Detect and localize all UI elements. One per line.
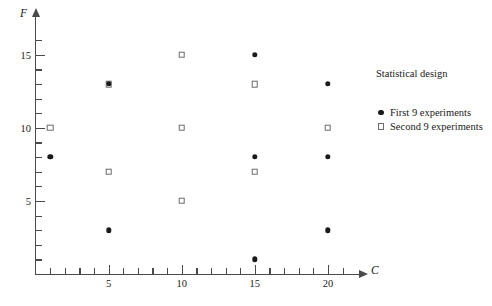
y-tick-label: 10 (9, 122, 31, 133)
x-axis-label: C (371, 264, 379, 276)
y-axis-label: F (20, 7, 27, 19)
y-tick-minor (36, 186, 42, 187)
data-point (106, 227, 111, 232)
y-tick-minor (36, 142, 42, 143)
legend: Statistical design First 9 experimentsSe… (376, 68, 492, 132)
y-tick-minor (36, 69, 42, 70)
x-tick-minor (211, 268, 212, 274)
x-tick-minor (50, 268, 51, 274)
y-tick-minor (36, 99, 42, 100)
x-tick-major (328, 265, 329, 274)
data-point (252, 154, 257, 159)
y-tick-minor (36, 216, 42, 217)
filled-circle-icon (376, 110, 386, 115)
data-point (252, 81, 259, 88)
x-tick-minor (152, 268, 153, 274)
legend-item: First 9 experiments (376, 107, 492, 118)
y-axis-arrow-icon (32, 8, 40, 17)
y-tick-minor (36, 113, 42, 114)
x-tick-minor (313, 268, 314, 274)
legend-item-label: First 9 experiments (390, 107, 471, 118)
x-axis-arrow-icon (359, 270, 368, 278)
legend-title: Statistical design (376, 68, 492, 79)
data-point (178, 125, 185, 132)
data-point (325, 154, 330, 159)
y-tick-label: 5 (9, 195, 31, 206)
x-tick-minor (226, 268, 227, 274)
legend-marker (378, 123, 384, 129)
legend-entries: First 9 experimentsSecond 9 experiments (376, 107, 492, 132)
x-tick-label: 15 (250, 278, 261, 289)
y-tick-minor (36, 230, 42, 231)
x-tick-minor (269, 268, 270, 274)
data-point (325, 81, 330, 86)
y-tick-minor (36, 245, 42, 246)
y-tick-minor (36, 40, 42, 41)
y-tick-minor (36, 172, 42, 173)
x-tick-minor (343, 268, 344, 274)
legend-marker (378, 110, 383, 115)
y-tick-major (36, 55, 45, 56)
x-tick-minor (196, 268, 197, 274)
data-point (105, 168, 112, 175)
open-square-icon (376, 123, 386, 129)
y-tick-minor (36, 157, 42, 158)
y-tick-minor (36, 84, 42, 85)
y-tick-major (36, 128, 45, 129)
x-tick-label: 5 (106, 278, 111, 289)
data-point (252, 168, 259, 175)
x-tick-minor (94, 268, 95, 274)
x-tick-label: 20 (323, 278, 334, 289)
legend-item: Second 9 experiments (376, 121, 492, 132)
x-tick-major (109, 265, 110, 274)
data-point (178, 51, 185, 58)
x-tick-minor (123, 268, 124, 274)
x-tick-minor (65, 268, 66, 274)
data-point (252, 52, 257, 57)
x-tick-minor (299, 268, 300, 274)
x-tick-minor (79, 268, 80, 274)
x-tick-minor (284, 268, 285, 274)
x-axis-line (35, 274, 360, 275)
y-tick-label: 15 (9, 49, 31, 60)
y-tick-major (36, 201, 45, 202)
x-tick-major (255, 265, 256, 274)
scatter-plot-figure: C F 5101520 51015 Statistical design Fir… (0, 0, 492, 306)
data-point (325, 125, 332, 132)
data-point (47, 125, 54, 132)
x-tick-label: 10 (176, 278, 187, 289)
data-point (178, 198, 185, 205)
y-tick-minor (36, 259, 42, 260)
x-tick-minor (138, 268, 139, 274)
x-tick-major (182, 265, 183, 274)
legend-item-label: Second 9 experiments (390, 121, 483, 132)
x-tick-minor (167, 268, 168, 274)
data-point (252, 257, 257, 262)
data-point (325, 227, 330, 232)
x-tick-minor (240, 268, 241, 274)
data-point (47, 154, 52, 159)
